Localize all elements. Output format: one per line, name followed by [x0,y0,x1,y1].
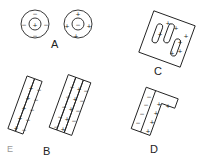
svg-text:+: + [145,127,150,134]
svg-text:−: − [65,93,70,100]
label-b: B [43,146,50,157]
svg-text:+: + [25,94,30,101]
svg-text:+: + [86,22,91,29]
svg-text:+: + [165,102,170,109]
svg-text:+: + [183,32,188,39]
svg-text:−: − [135,119,140,126]
svg-text:−: − [53,123,58,130]
svg-text:+: + [21,104,26,111]
svg-text:+: + [60,125,65,132]
label-c: C [154,66,162,77]
svg-text:−: − [75,107,80,114]
svg-text:−: − [33,96,38,103]
svg-text:−: − [32,10,37,17]
svg-text:+: + [173,24,178,31]
panel-b-left-signs: +− +− +− +− +− [13,84,41,133]
svg-text:−: − [146,93,151,100]
svg-text:+: + [76,85,81,92]
svg-text:−: − [71,117,76,124]
label-stray-e: E [7,145,13,154]
label-a: A [51,39,58,50]
svg-text:−: − [139,110,144,117]
svg-text:−: − [25,116,30,123]
svg-text:+: + [68,105,73,112]
svg-text:+: + [13,124,18,131]
svg-text:+: + [64,22,69,29]
svg-text:+: + [73,32,78,39]
svg-text:−: − [21,21,26,28]
svg-text:+: + [169,49,174,56]
svg-text:+: + [17,114,22,121]
svg-text:−: − [32,32,37,39]
label-d: D [150,144,158,155]
svg-text:+: + [28,84,33,91]
diagram-canvas: + − − − − − + + + + +− +− +− +− +− −+− −… [0,0,216,159]
svg-text:+: + [157,30,162,37]
svg-text:−: − [83,87,88,94]
svg-text:+: + [177,47,182,54]
svg-text:+: + [149,118,154,125]
svg-text:+: + [75,10,80,17]
svg-text:+: + [156,100,161,107]
svg-text:−: − [43,21,48,28]
svg-text:+: + [72,95,77,102]
svg-text:−: − [75,21,80,28]
svg-text:+: + [153,109,158,116]
svg-text:+: + [64,115,69,122]
svg-text:−: − [29,106,34,113]
panel-c-signs: + + + + + + + [157,19,188,56]
svg-text:−: − [69,83,74,90]
svg-text:+: + [177,38,182,45]
svg-text:−: − [36,86,41,93]
svg-text:−: − [143,101,148,108]
svg-text:+: + [32,21,37,28]
svg-text:−: − [57,113,62,120]
svg-text:−: − [61,103,66,110]
svg-text:+: + [165,19,170,26]
svg-text:−: − [79,97,84,104]
svg-text:−: − [21,126,26,133]
